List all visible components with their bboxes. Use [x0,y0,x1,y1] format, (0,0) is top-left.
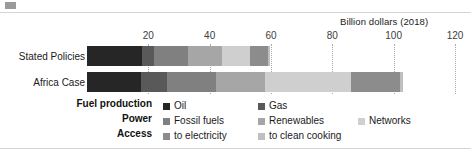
legend-group-label: Fuel production [0,97,152,110]
legend-item-gas[interactable]: Gas [258,97,287,110]
x-tick-label: 80 [315,30,349,41]
chart-figure: Billion dollars (2018) 20406080100120 St… [0,0,471,156]
axis-title: Billion dollars (2018) [340,16,428,27]
x-tick-label: 20 [131,30,165,41]
category-label: Stated Policies [19,51,85,62]
legend-swatch-icon [258,133,265,140]
legend-item-fossil-fuels[interactable]: Fossil fuels [163,112,224,125]
crop-mark-icon [5,2,16,9]
legend-swatch-icon [163,103,170,110]
legend-row-fuel-production: Fuel productionOilGas [0,97,471,110]
bar-segment-renewables[interactable] [188,46,222,66]
legend-item-to-clean-cooking[interactable]: to clean cooking [258,127,341,140]
bar-segment-networks[interactable] [222,46,250,66]
legend-swatch-icon [163,133,170,140]
chart-legend: Fuel productionOilGasPowerFossil fuelsRe… [0,97,471,141]
bar-stated-policies[interactable] [87,46,271,66]
bar-segment-to-clean-cooking[interactable] [268,46,270,66]
legend-swatch-icon [258,118,265,125]
x-tick-label: 120 [438,30,471,41]
x-tick-label: 40 [193,30,227,41]
bar-segment-gas[interactable] [141,72,167,92]
legend-swatch-icon [163,118,170,125]
bottom-divider [0,148,471,149]
legend-item-label: Networks [369,115,411,126]
legend-item-oil[interactable]: Oil [163,97,186,110]
bar-segment-to-clean-cooking[interactable] [400,72,403,92]
bar-africa-case[interactable] [87,72,403,92]
legend-row-access: Accessto electricityto clean cooking [0,127,471,140]
x-tick-label: 100 [377,30,411,41]
bar-segment-oil[interactable] [87,46,142,66]
legend-group-label: Access [0,127,152,140]
legend-item-label: Gas [269,100,287,111]
legend-item-renewables[interactable]: Renewables [258,112,324,125]
legend-item-label: to clean cooking [269,130,341,141]
legend-item-to-electricity[interactable]: to electricity [163,127,227,140]
legend-group-label: Power [0,112,152,125]
legend-row-power: PowerFossil fuelsRenewablesNetworks [0,112,471,125]
category-label: Africa Case [33,77,85,88]
bar-segment-fossil-fuels[interactable] [154,46,188,66]
bar-segment-oil[interactable] [87,72,141,92]
bar-segment-renewables[interactable] [216,72,265,92]
legend-swatch-icon [358,118,365,125]
legend-swatch-icon [258,103,265,110]
bar-segment-fossil-fuels[interactable] [167,72,216,92]
bar-segment-to-electricity[interactable] [250,46,268,66]
legend-item-label: Oil [174,100,186,111]
legend-item-label: to electricity [174,130,227,141]
bar-segment-to-electricity[interactable] [351,72,400,92]
legend-item-networks[interactable]: Networks [358,112,411,125]
legend-item-label: Renewables [269,115,324,126]
x-tick-label: 60 [254,30,288,41]
plot-area: Stated PoliciesAfrica Case [0,44,471,96]
bar-segment-gas[interactable] [142,46,154,66]
top-divider [0,12,471,13]
bar-segment-networks[interactable] [265,72,351,92]
legend-item-label: Fossil fuels [174,115,224,126]
